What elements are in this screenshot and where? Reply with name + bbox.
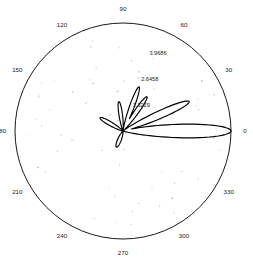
angle-tick-label-150: 150 [12, 66, 23, 73]
speckle [138, 71, 140, 72]
speckle [198, 178, 199, 179]
speckle [92, 40, 93, 41]
speckle [57, 151, 58, 152]
speckle [36, 119, 37, 120]
speckle [37, 167, 39, 168]
angle-tick-label-270: 270 [118, 249, 129, 256]
angle-tick-label-240: 240 [57, 232, 68, 239]
speckle [110, 114, 111, 115]
speckle [117, 120, 119, 121]
angle-tick-label-180: 180 [0, 127, 7, 134]
speckle [138, 203, 140, 204]
speckle [201, 80, 203, 81]
speckle [196, 105, 197, 106]
speckle [116, 222, 117, 223]
speckle [85, 103, 87, 104]
speckle [152, 187, 153, 188]
speckle [101, 150, 103, 151]
speckle [49, 110, 50, 111]
speckle [173, 212, 175, 213]
speckle [161, 172, 162, 173]
polar-plot-figure: 0306090120150180210240270300330 1.32292.… [0, 0, 253, 264]
speckle [123, 149, 125, 150]
speckle [72, 92, 74, 93]
speckle [96, 68, 97, 69]
speckle [119, 47, 120, 48]
speckle [94, 218, 96, 219]
polar-plot-canvas: 0306090120150180210240270300330 1.32292.… [0, 0, 253, 264]
angle-tick-label-0: 0 [243, 127, 247, 134]
speckle [152, 58, 153, 59]
speckle [87, 101, 88, 102]
radial-tick-label-1: 2.6458 [141, 76, 158, 82]
speckle [167, 55, 169, 56]
speckle [26, 135, 27, 136]
speckle [123, 81, 124, 82]
angle-tick-label-300: 300 [179, 232, 190, 239]
angle-tick-label-210: 210 [12, 188, 23, 195]
angle-tick-label-120: 120 [57, 21, 68, 28]
speckle [198, 109, 200, 110]
speckle [130, 224, 131, 225]
speckle [216, 128, 217, 129]
speckle [44, 171, 46, 172]
angle-tick-label-60: 60 [181, 21, 188, 28]
speckle [41, 83, 42, 84]
speckle [89, 79, 91, 80]
speckle [197, 99, 198, 100]
radial-tick-label-0: 1.3229 [133, 102, 150, 108]
speckle [181, 171, 183, 172]
speckle [131, 60, 132, 61]
speckle [61, 135, 62, 136]
angle-tick-label-30: 30 [225, 66, 232, 73]
speckle [54, 81, 55, 82]
speckle [114, 196, 116, 197]
speckle [220, 150, 221, 151]
angle-tick-label-330: 330 [224, 188, 235, 195]
speckle [138, 78, 140, 79]
speckle [38, 96, 39, 97]
speckle [119, 164, 120, 165]
speckle [132, 211, 133, 212]
speckle [90, 46, 92, 47]
speckle [93, 83, 94, 84]
speckle [39, 95, 40, 96]
speckle [159, 206, 160, 207]
speckle [72, 139, 73, 140]
speckle [209, 94, 210, 95]
speckle [41, 125, 42, 126]
speckle [117, 91, 119, 92]
speckle [174, 183, 175, 184]
speckle [153, 88, 155, 89]
angle-tick-label-90: 90 [120, 5, 127, 12]
radial-tick-label-2: 3.9686 [149, 50, 166, 56]
speckle [109, 188, 110, 189]
speckle [73, 140, 75, 141]
speckle [214, 94, 215, 95]
speckle [92, 83, 93, 84]
speckle [172, 198, 174, 199]
